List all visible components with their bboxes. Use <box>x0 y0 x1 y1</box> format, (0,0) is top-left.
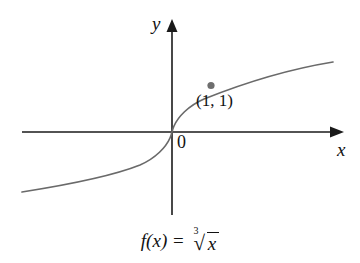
y-axis-label: y <box>152 14 160 33</box>
caption-function-name: f(x) <box>141 230 167 251</box>
point-marker-1-1 <box>207 82 214 89</box>
radical-index: 3 <box>193 226 198 236</box>
function-caption: f(x) = 3 √ x <box>0 231 360 254</box>
origin-label: 0 <box>177 133 186 151</box>
cube-root-curve <box>22 62 333 192</box>
x-axis-arrow-icon <box>330 127 344 138</box>
point-coordinate-label: (1, 1) <box>196 92 233 109</box>
radical-sign-icon: √ <box>193 233 205 254</box>
radicand: x <box>207 232 219 253</box>
caption-equals-sign: = <box>172 230 185 251</box>
cube-root-function-figure: y x 0 (1, 1) f(x) = 3 √ x <box>0 0 360 263</box>
y-axis-arrow-icon <box>167 19 178 32</box>
cube-root-radical: 3 √ x <box>193 232 219 254</box>
x-axis-label: x <box>337 140 345 159</box>
